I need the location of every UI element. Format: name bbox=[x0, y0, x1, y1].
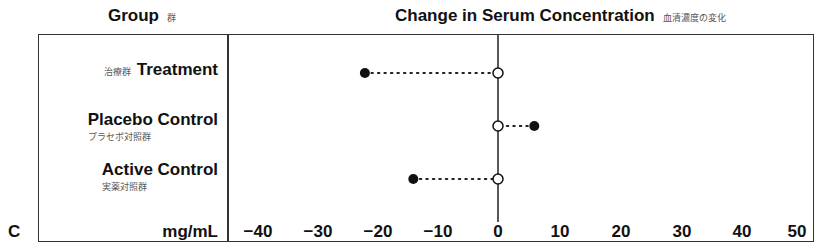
data-marks bbox=[360, 68, 539, 184]
plot-area bbox=[0, 0, 828, 250]
filled-point bbox=[360, 68, 370, 78]
open-point bbox=[493, 121, 503, 131]
filled-point bbox=[408, 174, 418, 184]
open-point bbox=[493, 174, 503, 184]
filled-point bbox=[529, 121, 539, 131]
open-point bbox=[493, 68, 503, 78]
